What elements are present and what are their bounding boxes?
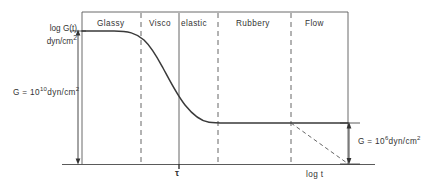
glassy-modulus-label-post: dyn/cm [47, 88, 76, 97]
x-axis-label: log t [306, 170, 323, 179]
glassy-modulus-label: G = 1010dyn/cm2 [13, 88, 79, 98]
glassy-modulus-arrow-head-down [76, 159, 81, 165]
rubbery-modulus-label-post-exp: 2 [417, 135, 421, 141]
y-axis-top-label-line1: log G(t) [50, 24, 77, 33]
relaxation-modulus-figure: log G(t) dyn/cm2 G = 1010dyn/cm2 G = 106… [0, 0, 431, 189]
terminal-flow-dashed-line [291, 123, 347, 163]
y-axis-top-label-line2: dyn/cm [47, 37, 73, 46]
x-axis-tau-label: τ [175, 168, 179, 178]
rubbery-modulus-label-pre: G = 10 [358, 137, 385, 146]
region-label-elastic: elastic [181, 19, 207, 28]
y-axis-top-label: log G(t) dyn/cm2 [29, 24, 77, 46]
region-label-glassy: Glassy [97, 19, 124, 28]
rubbery-modulus-label-post: dyn/cm [389, 137, 418, 146]
y-axis-top-label-exp: 2 [73, 34, 77, 41]
relaxation-modulus-curve [82, 31, 348, 123]
region-label-flow: Flow [305, 19, 324, 28]
glassy-modulus-label-post-exp: 2 [76, 86, 80, 92]
region-label-rubbery: Rubbery [236, 19, 270, 28]
plot-frame [82, 12, 348, 164]
rubbery-modulus-arrow-head-down [347, 158, 352, 165]
rubbery-modulus-label: G = 106dyn/cm2 [358, 137, 421, 147]
glassy-modulus-label-pre: G = 10 [13, 88, 40, 97]
region-label-visco: Visco [149, 19, 171, 28]
